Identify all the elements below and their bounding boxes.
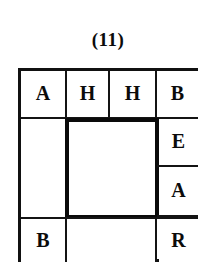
figure-root: (11) A H H B xyxy=(0,0,216,277)
grid-cell-center xyxy=(69,121,155,215)
grid-cell-right-3: A xyxy=(159,167,198,215)
grid-center-border-left xyxy=(65,118,69,219)
grid-cell-letter: H xyxy=(125,83,141,103)
grid-cell-left-middle xyxy=(21,119,65,217)
grid-divider-top-3 xyxy=(155,71,157,117)
grid-divider-bottom-2 xyxy=(155,219,157,262)
grid-cell-top-4: B xyxy=(157,71,198,117)
grid-cell-bottom-1: B xyxy=(21,219,65,262)
grid-cell-letter: B xyxy=(36,230,49,250)
grid-cell-letter: A xyxy=(171,180,185,200)
grid-cell-letter: E xyxy=(172,131,185,151)
grid-cell-letter: A xyxy=(36,83,50,103)
grid-cell-right-2: E xyxy=(159,119,198,165)
grid-cell-bottom-3: R xyxy=(159,219,198,262)
grid-divider-bottom-1 xyxy=(65,219,67,262)
figure-caption: (11) xyxy=(0,30,216,49)
grid-divider-top-1 xyxy=(65,71,67,117)
grid-center-border-top xyxy=(65,118,159,122)
grid-cell-top-2: H xyxy=(67,71,108,117)
grid-cell-top-1: A xyxy=(21,71,65,117)
grid-cell-letter: B xyxy=(171,83,184,103)
letter-grid: A H H B E A xyxy=(18,68,198,262)
grid-cell-letter: H xyxy=(80,83,96,103)
grid-cell-letter: R xyxy=(171,230,185,250)
grid-cell-top-3: H xyxy=(110,71,155,117)
grid-cell-bottom-2 xyxy=(67,219,155,262)
grid-divider-top-2 xyxy=(108,71,110,117)
grid-divider-right-1 xyxy=(157,165,198,167)
